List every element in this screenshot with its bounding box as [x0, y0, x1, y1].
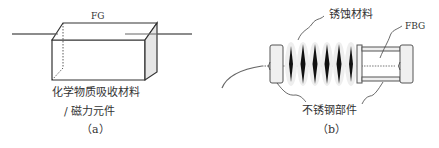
material-label: 化学物质吸收材料: [52, 86, 140, 99]
fiber-cable: [222, 66, 262, 88]
stainless-steel-label: 不锈钢部件: [302, 104, 357, 117]
left-end-cap: [270, 45, 283, 83]
fiber-label: FG: [91, 10, 104, 23]
corrosion-spiral: [285, 42, 357, 86]
diagram-canvas: [0, 0, 439, 148]
absorber-box: [52, 23, 157, 80]
panel-b-figure: [222, 16, 413, 104]
caption-a: （a）: [81, 123, 110, 136]
steel-leader-right: [362, 82, 383, 104]
right-end-cap: [400, 45, 413, 83]
panel-a-figure: [12, 23, 192, 80]
fbg-leader: [380, 26, 402, 58]
corrosion-material-label: 锈蚀材料: [329, 8, 373, 21]
corrosion-leader: [298, 16, 324, 40]
magnetic-element-label: / 磁力元件: [64, 105, 115, 118]
caption-b: （b）: [317, 123, 346, 136]
fbg-label: FBG: [405, 20, 425, 33]
middle-flange: [357, 45, 362, 83]
steel-rods: [362, 47, 400, 81]
